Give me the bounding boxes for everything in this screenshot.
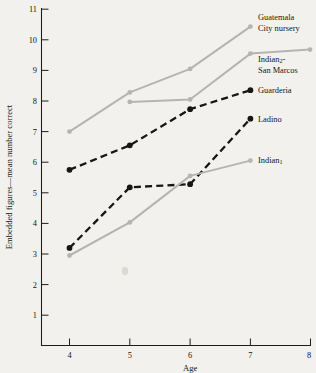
data-point <box>187 181 193 187</box>
series-label-indian2-stem: Indian <box>258 55 280 64</box>
data-point <box>188 97 193 102</box>
paper-speck <box>122 267 128 275</box>
x-tick-label: 6 <box>188 351 192 360</box>
y-tick-label: 2 <box>33 281 37 290</box>
data-point <box>127 142 133 148</box>
series-label-ladino: Ladino <box>258 115 282 124</box>
y-tick-label: 1 <box>33 311 37 320</box>
data-point <box>308 47 313 52</box>
series-label-indian1: Indian1 <box>258 156 283 165</box>
data-point <box>187 106 193 112</box>
data-point <box>127 184 133 190</box>
data-point <box>248 116 254 122</box>
x-tick-label: 5 <box>128 351 132 360</box>
data-point <box>248 87 254 93</box>
series-label-indian1-stem: Indian <box>258 156 280 165</box>
x-axis-title: Age <box>183 363 198 373</box>
series-label-indian1-sub: 1 <box>279 158 282 165</box>
x-tick-label: 8 <box>307 351 311 360</box>
data-point <box>67 245 73 251</box>
data-point <box>188 174 193 179</box>
y-tick-label: 10 <box>29 36 37 45</box>
chart-figure: 11 10 9 8 7 6 5 4 3 2 1 4 5 6 7 8 <box>0 0 316 373</box>
y-axis-title: Embedded figures—mean number correct <box>4 104 14 249</box>
data-point <box>127 90 132 95</box>
data-point <box>67 253 72 258</box>
y-tick-label: 7 <box>33 128 37 137</box>
series-label-indian2-line2: San Marcos <box>258 66 298 75</box>
y-tick-label: 3 <box>33 250 37 259</box>
series-label-guarderia: Guarderia <box>258 86 292 95</box>
y-tick-label: 9 <box>33 66 37 75</box>
y-tick-label: 5 <box>33 189 37 198</box>
y-tick-label: 6 <box>33 158 37 167</box>
data-point <box>67 129 72 134</box>
data-point <box>188 67 193 72</box>
series-label-guatemala-line1: Guatemala <box>258 13 295 22</box>
x-tick-label: 7 <box>248 351 252 360</box>
y-tick-label: 8 <box>33 97 37 106</box>
y-tick-label: 11 <box>29 5 37 14</box>
data-point <box>248 158 253 163</box>
data-point <box>248 51 253 56</box>
data-point <box>127 220 132 225</box>
data-point <box>67 167 73 173</box>
series-label-guatemala-line2: City nursery <box>258 24 300 33</box>
svg-text:Indian2-: Indian2- <box>258 55 286 64</box>
data-point <box>248 24 253 29</box>
data-point <box>127 100 132 105</box>
series-label-indian2-dash: - <box>283 55 286 64</box>
